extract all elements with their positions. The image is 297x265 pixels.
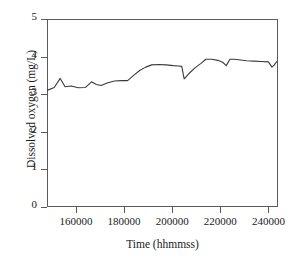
y-tick-mark (41, 57, 47, 58)
x-tick-label: 240000 (240, 216, 296, 227)
data-series-line (47, 19, 278, 207)
y-tick-mark (41, 19, 47, 20)
x-axis-title: Time (hhmmss) (47, 238, 278, 250)
x-tick-mark (76, 207, 77, 213)
y-tick-mark (41, 169, 47, 170)
x-tick-mark (172, 207, 173, 213)
x-tick-mark (124, 207, 125, 213)
y-tick-mark (41, 132, 47, 133)
y-axis-title: Dissolved oxygen (mg/L) (25, 14, 37, 204)
chart-figure: 012345 160000180000200000220000240000 Ti… (0, 0, 297, 265)
y-tick-mark (41, 94, 47, 95)
y-tick-mark (41, 207, 47, 208)
x-tick-mark (220, 207, 221, 213)
x-tick-mark (268, 207, 269, 213)
